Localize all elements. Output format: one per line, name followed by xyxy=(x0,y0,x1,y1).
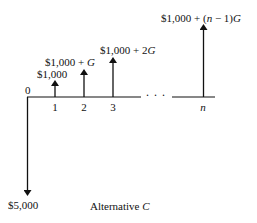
period-label-n: n xyxy=(196,101,210,113)
cash-flow-diagram xyxy=(0,0,257,223)
receipt-label-2-var: G xyxy=(87,56,95,68)
receipt-label-2: $1,000 + G xyxy=(45,56,95,68)
diagram-caption: Alternative C xyxy=(90,200,150,212)
period-label-1: 1 xyxy=(48,101,62,113)
receipt-label-n-mid: − 1) xyxy=(212,12,233,24)
receipt-label-1: $1,000 xyxy=(37,68,67,80)
caption-var: C xyxy=(142,200,149,212)
receipt-label-1-text: $1,000 xyxy=(37,68,67,80)
receipt-label-3-var: G xyxy=(147,44,155,56)
period-label-2: 2 xyxy=(77,101,91,113)
period-label-3: 3 xyxy=(106,101,120,113)
receipt-label-n-g: G xyxy=(233,12,241,24)
receipt-label-2-base: $1,000 + xyxy=(45,56,84,68)
receipt-label-n-base: $1,000 + ( xyxy=(161,12,207,24)
receipt-label-3: $1,000 + 2G xyxy=(100,44,155,56)
investment-label: $5,000 xyxy=(8,199,38,211)
caption-prefix: Alternative xyxy=(90,200,139,212)
receipt-label-n: $1,000 + (n − 1)G xyxy=(161,12,241,24)
ellipsis: . . . xyxy=(146,86,166,98)
origin-label: 0 xyxy=(25,84,31,96)
receipt-label-3-base: $1,000 + 2 xyxy=(100,44,147,56)
